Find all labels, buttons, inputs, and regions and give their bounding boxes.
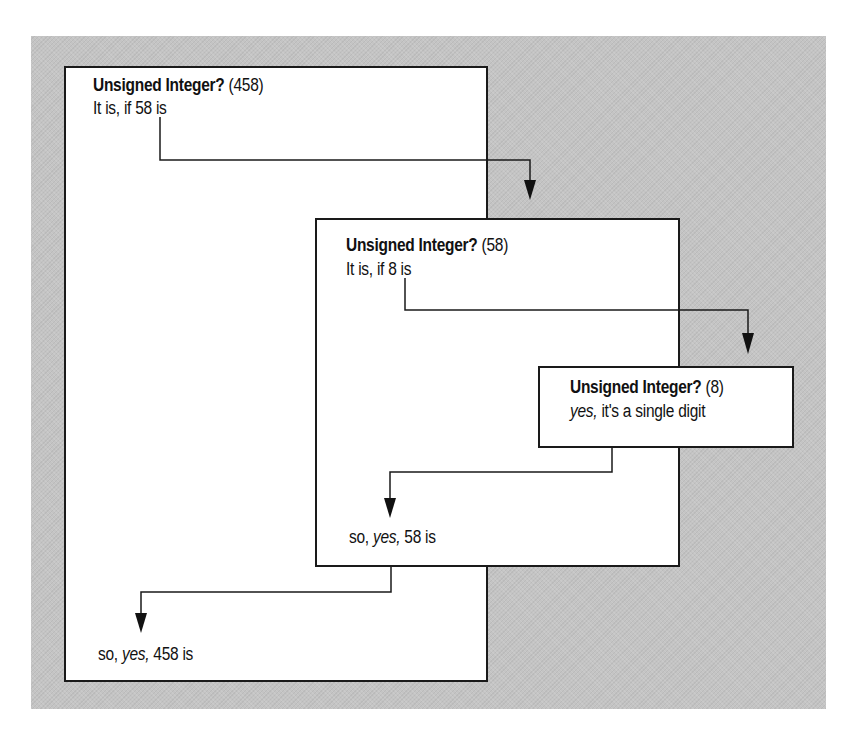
call-8-base-case: yes, it's a single digit: [570, 401, 705, 421]
call-8-base-yes: yes,: [570, 401, 597, 421]
call-458-result-yes: yes,: [122, 644, 149, 664]
call-58-result-prefix: so,: [349, 527, 369, 547]
call-58-argument: (58): [482, 235, 508, 255]
call-458-result: so, yes, 458 is: [98, 644, 193, 664]
call-458-result-prefix: so,: [98, 644, 118, 664]
call-58-result-suffix: 58 is: [404, 527, 435, 547]
call-8-argument: (8): [706, 377, 724, 397]
call-458-title: Unsigned Integer? (458): [93, 75, 263, 95]
call-458-title-label: Unsigned Integer?: [93, 75, 225, 95]
call-8-title: Unsigned Integer? (8): [570, 377, 724, 397]
call-58-condition: It is, if 8 is: [346, 259, 411, 279]
call-58-result: so, yes, 58 is: [349, 527, 436, 547]
call-58-result-yes: yes,: [373, 527, 400, 547]
call-458-condition: It is, if 58 is: [93, 98, 167, 118]
call-458-argument: (458): [229, 75, 264, 95]
call-58-title: Unsigned Integer? (58): [346, 235, 508, 255]
call-458-result-suffix: 458 is: [153, 644, 193, 664]
call-8-base-text: it's a single digit: [601, 401, 705, 421]
call-58-title-label: Unsigned Integer?: [346, 235, 478, 255]
call-8-title-label: Unsigned Integer?: [570, 377, 702, 397]
